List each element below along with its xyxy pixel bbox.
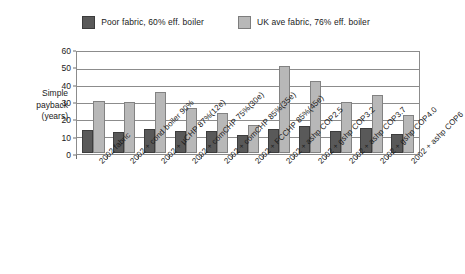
y-axis-title-line-2: payback xyxy=(6,100,68,112)
y-tick-label-30: 30 xyxy=(62,99,71,108)
bar-uk-ave-fabric xyxy=(93,101,104,154)
legend-swatch-icon-poor-fabric xyxy=(82,16,95,29)
y-tick-mark-50 xyxy=(73,68,76,69)
chart-legend: Poor fabric, 60% eff. boiler UK ave fabr… xyxy=(0,11,452,33)
legend-label-poor-fabric: Poor fabric, 60% eff. boiler xyxy=(101,18,204,27)
y-tick-label-0: 0 xyxy=(66,151,71,160)
y-tick-label-20: 20 xyxy=(62,116,71,125)
y-tick-mark-20 xyxy=(73,120,76,121)
bar-poor-fabric xyxy=(82,130,93,153)
legend-entry-uk-ave-fabric: UK ave fabric, 76% eff. boiler xyxy=(238,16,370,29)
bar-group xyxy=(78,53,109,153)
y-tick-mark-30 xyxy=(73,103,76,104)
y-tick-mark-10 xyxy=(73,137,76,138)
legend-label-uk-ave-fabric: UK ave fabric, 76% eff. boiler xyxy=(257,18,370,27)
legend-entry-poor-fabric: Poor fabric, 60% eff. boiler xyxy=(82,16,204,29)
y-tick-label-50: 50 xyxy=(62,64,71,73)
y-axis-title-line-1: Simple xyxy=(6,88,68,100)
x-axis-labels: 2002 fabric2002 + cond boiler 90%2002 + … xyxy=(76,160,420,272)
y-tick-label-10: 10 xyxy=(62,133,71,142)
y-axis-title: Simple payback (years) xyxy=(6,88,68,123)
y-tick-mark-40 xyxy=(73,85,76,86)
legend-swatch-icon-uk-ave-fabric xyxy=(238,16,251,29)
y-tick-label-40: 40 xyxy=(62,81,71,90)
y-tick-mark-60 xyxy=(73,51,76,52)
y-tick-label-60: 60 xyxy=(62,47,71,56)
y-axis-title-line-3: (years) xyxy=(6,111,68,123)
bar-uk-ave-fabric xyxy=(124,102,135,153)
